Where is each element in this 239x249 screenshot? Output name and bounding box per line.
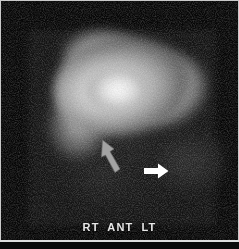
bottom-strip [0, 242, 239, 249]
acquisition-field [28, 30, 216, 226]
frame-border-right [238, 0, 239, 240]
orientation-label: RT ANT LT [1, 221, 238, 233]
scintigraphy-screenshot: RT ANT LT [0, 0, 239, 249]
scan-image-canvas[interactable]: RT ANT LT [1, 1, 238, 240]
